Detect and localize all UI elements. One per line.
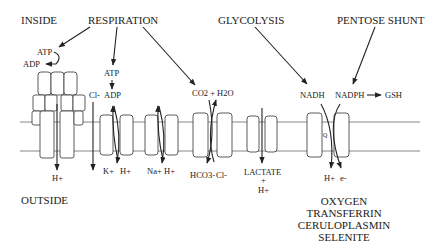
bicarbonate-label: HCO3- [190,170,215,180]
cl-label: Cl- [89,90,100,100]
h-plus-label-2: H+ [120,166,131,176]
atp-label-2: ATP [104,68,119,78]
atp-synthase-complex: ATP ADP H+ [23,47,85,183]
na-h-exchanger: Na+ H+ [145,106,178,176]
plus-label: + [261,175,266,185]
inside-label: INSIDE [21,14,57,26]
membrane-transport-diagram: INSIDE RESPIRATION GLYCOLYSIS PENTOSE SH… [0,0,431,252]
respiration-arrows [59,27,195,85]
cl-label-2: Cl- [216,170,227,180]
anion-exchanger: CO2 + H2O HCO3- Cl- [190,88,234,180]
co2-h2o-label: CO2 + H2O [192,88,234,98]
gsh-label: GSH [385,90,402,100]
h-plus-label-3: H+ [164,166,175,176]
chloride-channel: Cl- [89,90,100,170]
oxygen-label: OXYGEN [321,195,367,207]
plasma-membrane-redox-system: NADH NADPH GSH Q H+ e- [300,90,402,183]
adp-label: ADP [23,59,40,69]
h-plus-label-4: H+ [258,185,269,195]
transferrin-label: TRANSFERRIN [306,207,381,219]
h-plus-label: H+ [52,173,63,183]
metabolic-arrows [255,27,375,84]
h-plus-label-5: H+ [324,173,335,183]
ceruloplasmin-label: CERULOPLASMIN [298,219,390,231]
glycolysis-label: GLYCOLYSIS [218,14,284,26]
lactate-transporter: LACTATE + H+ [244,108,281,195]
k-plus-label: K+ [103,166,114,176]
electron-label: e- [340,173,347,183]
adp-label-2: ADP [104,90,121,100]
nadph-label: NADPH [335,90,364,100]
na-plus-label: Na+ [147,166,162,176]
respiration-label: RESPIRATION [88,14,158,26]
electron-acceptors: OXYGEN TRANSFERRIN CERULOPLASMIN SELENIT… [298,195,390,243]
nadh-label: NADH [300,90,325,100]
q-label: Q [323,132,328,138]
atp-label: ATP [37,47,52,57]
pentose-shunt-label: PENTOSE SHUNT [337,14,425,26]
selenite-label: SELENITE [318,231,370,243]
outside-label: OUTSIDE [21,194,68,206]
